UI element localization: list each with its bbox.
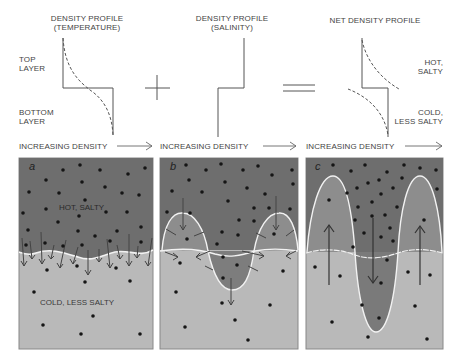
panel-a bbox=[19, 158, 153, 349]
label-line: COLD, bbox=[380, 108, 443, 117]
label-line: LESS SALTY bbox=[380, 117, 443, 126]
label-line: BOTTOM bbox=[19, 108, 54, 117]
temperature-profile-graph bbox=[63, 38, 113, 135]
bottom-layer-label: BOTTOM LAYER bbox=[19, 108, 54, 126]
top-layer-label: TOP LAYER bbox=[19, 55, 45, 73]
plus-operator bbox=[145, 75, 170, 100]
net-profile-title: NET DENSITY PROFILE bbox=[325, 16, 425, 25]
label-line: TOP bbox=[19, 55, 45, 64]
axis-label-net: INCREASING DENSITY bbox=[306, 142, 394, 151]
equals-operator bbox=[283, 85, 315, 91]
panel-b-label: b bbox=[170, 160, 176, 172]
salinity-profile-graph bbox=[218, 38, 244, 137]
panel-c bbox=[306, 158, 443, 349]
salinity-profile-title: DENSITY PROFILE (SALINITY) bbox=[187, 14, 277, 32]
panel-c-label: c bbox=[315, 160, 321, 172]
axis-label-temperature: INCREASING DENSITY bbox=[19, 142, 107, 151]
axis-label-salinity: INCREASING DENSITY bbox=[160, 142, 248, 151]
panel-b bbox=[160, 158, 298, 349]
label-line: HOT, bbox=[400, 58, 443, 67]
label-line: LAYER bbox=[19, 64, 45, 73]
net-hot-salty-label: HOT, SALTY bbox=[400, 58, 443, 76]
title-line: DENSITY PROFILE bbox=[42, 14, 132, 23]
panel-a-label: a bbox=[29, 160, 35, 172]
title-line: (SALINITY) bbox=[187, 23, 277, 32]
net-cold-less-salty-label: COLD, LESS SALTY bbox=[380, 108, 443, 126]
title-line: DENSITY PROFILE bbox=[187, 14, 277, 23]
label-line: SALTY bbox=[400, 67, 443, 76]
hot-salty-label: HOT, SALTY bbox=[59, 203, 104, 212]
temperature-profile-title: DENSITY PROFILE (TEMPERATURE) bbox=[42, 14, 132, 32]
cold-less-salty-label: COLD, LESS SALTY bbox=[40, 298, 114, 307]
title-line: (TEMPERATURE) bbox=[42, 23, 132, 32]
label-line: LAYER bbox=[19, 117, 54, 126]
